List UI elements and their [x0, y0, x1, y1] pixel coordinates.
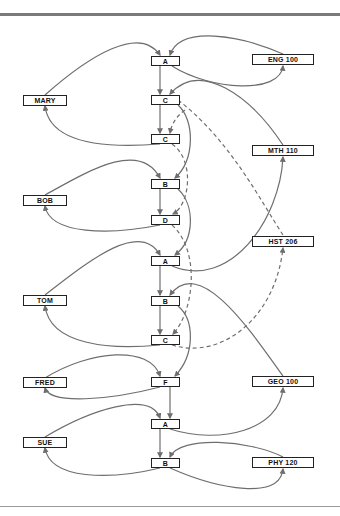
grade-node: C [151, 134, 180, 144]
student-bob: BOB [23, 195, 67, 206]
grade-node: F [151, 377, 180, 387]
course-phy120: PHY 120 [252, 457, 314, 468]
grade-node: C [151, 95, 180, 105]
student-fred: FRED [23, 377, 67, 388]
edge-c-mary [45, 106, 160, 145]
student-tom: TOM [23, 295, 67, 306]
course-eng100: ENG 100 [252, 54, 314, 65]
student-sue: SUE [23, 437, 67, 448]
course-geo100: GEO 100 [252, 376, 314, 387]
grade-node: C [151, 335, 180, 345]
bottom-rule [0, 506, 340, 507]
edge-mary-a [45, 43, 160, 95]
grade-node: B [151, 296, 180, 306]
edge-eng-a [170, 36, 283, 55]
grade-node: B [151, 458, 180, 468]
course-mth110: MTH 110 [252, 145, 314, 156]
course-hst206: HST 206 [252, 236, 314, 247]
student-mary: MARY [23, 95, 67, 106]
grade-node: B [151, 179, 180, 189]
grade-node: A [151, 256, 180, 266]
grade-node: A [151, 419, 180, 429]
edge-mth-c [170, 80, 283, 145]
grade-node: A [151, 56, 180, 66]
edge-a-eng [172, 66, 283, 86]
grade-node: D [151, 215, 180, 225]
